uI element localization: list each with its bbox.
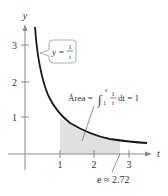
shaded-area (60, 118, 120, 154)
x-tick-2: 2 (92, 159, 97, 170)
e-approx-label: e ≈ 2.72 (97, 174, 129, 185)
x-tick-1: 1 (58, 159, 63, 170)
area-label: Área = ∫ e 1 1 t dt = 1 (68, 87, 139, 108)
y-axis-label: y (22, 10, 28, 21)
x-axis-arrow-icon (145, 152, 152, 157)
y-axis-arrow-icon (23, 24, 28, 31)
y-tick-1: 1 (12, 112, 17, 123)
integral-diagram: 1 2 3 1 2 3 t y y = 1 t Área = ∫ e 1 1 t… (0, 0, 168, 196)
y-tick-2: 2 (12, 77, 17, 88)
x-axis-label: t (157, 148, 160, 159)
x-tick-3: 3 (127, 159, 132, 170)
curve-label-num: 1 (68, 43, 72, 51)
area-label-suffix: dt = 1 (118, 93, 139, 103)
plot-svg: 1 2 3 1 2 3 t y y = 1 t Área = ∫ e 1 1 t… (0, 0, 168, 196)
e-leader-line (112, 154, 120, 172)
y-tick-3: 3 (12, 40, 17, 51)
area-frac-num: 1 (111, 90, 115, 98)
area-frac-den: t (112, 99, 115, 107)
curve-label-lhs: y = (51, 47, 64, 57)
curve-label-callout: y = 1 t (40, 40, 76, 63)
integral-lower: 1 (103, 100, 106, 106)
area-label-prefix: Área = (68, 93, 93, 103)
integral-upper: e (105, 87, 108, 93)
